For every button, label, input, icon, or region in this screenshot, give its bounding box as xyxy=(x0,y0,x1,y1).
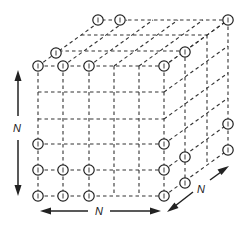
top-depth-grid-line xyxy=(89,20,153,66)
top-depth-grid-line xyxy=(139,20,203,66)
right-depth-grid-line xyxy=(164,73,228,119)
top-depth-grid-line xyxy=(114,20,178,66)
vertical-dimension-label: N xyxy=(13,122,21,134)
cubic-lattice-diagram: N N N xyxy=(0,0,245,227)
right-depth-grid-line xyxy=(164,46,228,92)
vertical-dimension-arrow: N xyxy=(13,70,22,196)
right-depth-grid-line xyxy=(164,20,228,66)
depth-dimension-arrow: N xyxy=(167,166,229,212)
depth-dimension-label: N xyxy=(197,183,205,195)
horizontal-dimension-arrow: N xyxy=(40,205,161,217)
arrow-right-icon xyxy=(150,208,161,215)
arrow-up-icon xyxy=(15,70,22,81)
top-depth-grid-line xyxy=(38,20,102,66)
lattice-canvas: N N N xyxy=(0,0,245,227)
right-depth-grid-line xyxy=(164,124,228,170)
horizontal-dimension-label: N xyxy=(95,205,103,217)
arrow-left-icon xyxy=(40,208,51,215)
right-depth-grid-line xyxy=(164,98,228,144)
arrow-down-icon xyxy=(15,185,22,196)
top-depth-grid-line xyxy=(63,20,127,66)
